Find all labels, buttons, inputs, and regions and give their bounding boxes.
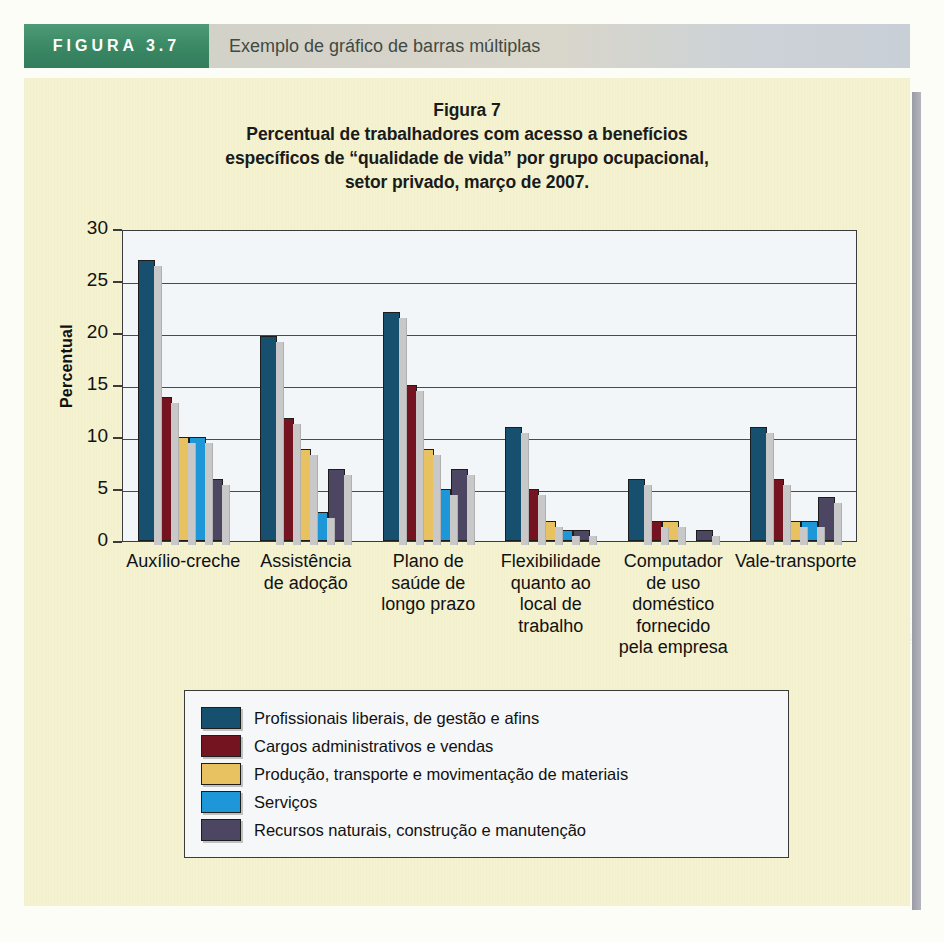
figure-header-band: FIGURA 3.7 Exemplo de gráfico de barras … [24, 24, 910, 68]
page-background: os Estados Unidos, por setor 12.000 70.2… [0, 0, 944, 942]
bar-group [491, 231, 614, 541]
chart-subtitle-line-2: específicos de “qualidade de vida” por g… [24, 146, 910, 170]
legend-swatch-icon [201, 763, 241, 785]
y-axis-tick-mark [113, 489, 122, 491]
figure-number-tag: FIGURA 3.7 [24, 24, 209, 68]
x-axis-category-label: Vale-transporte [721, 551, 872, 573]
bar-shadow [450, 495, 458, 545]
category-label-line: doméstico [598, 594, 749, 616]
bar-shadow [572, 536, 580, 545]
bar-shadow [712, 536, 720, 545]
bar-shadow [661, 527, 669, 545]
legend-label: Produção, transporte e movimentação de m… [254, 765, 628, 784]
bar-shadow [589, 536, 597, 545]
bar-shadow [800, 527, 808, 545]
panel-shadow [912, 92, 921, 910]
bar-shadow [310, 455, 318, 545]
bar-shadow [399, 318, 407, 545]
y-axis-tick-mark [113, 541, 122, 543]
bar-shadow [433, 455, 441, 545]
bar-shadow [344, 475, 352, 545]
legend-swatch-icon [201, 735, 241, 757]
category-label-line: de uso [598, 573, 749, 595]
figure-panel: Figura 7 Percentual de trabalhadores com… [24, 78, 910, 906]
bar-chart: Figura 7 Percentual de trabalhadores com… [24, 78, 910, 906]
category-label-line: pela empresa [598, 637, 749, 659]
bar [628, 479, 645, 541]
bar-shadow [327, 518, 335, 545]
plot-area [122, 230, 857, 542]
chart-subtitle-line-1: Percentual de trabalhadores com acesso a… [24, 122, 910, 146]
legend-label: Serviços [254, 793, 317, 812]
bar [696, 530, 713, 541]
bar-shadow [467, 475, 475, 545]
legend-item[interactable]: Profissionais liberais, de gestão e afin… [201, 704, 772, 732]
y-axis-tick-mark [113, 385, 122, 387]
bar-shadow [834, 503, 842, 545]
legend-label: Recursos naturais, construção e manutenç… [254, 821, 586, 840]
bar [750, 427, 767, 541]
bar [505, 427, 522, 541]
bar-shadow [188, 443, 196, 545]
bar-shadow [783, 485, 791, 545]
y-axis-tick-label: 5 [48, 477, 108, 499]
legend-item[interactable]: Produção, transporte e movimentação de m… [201, 760, 772, 788]
bar-shadow [538, 495, 546, 545]
bar-shadow [154, 266, 162, 545]
legend-swatch-icon [201, 707, 241, 729]
chart-title-main: Figura 7 [24, 98, 910, 122]
y-axis-tick-label: 25 [48, 269, 108, 291]
y-axis-tick-mark [113, 281, 122, 283]
legend-label: Profissionais liberais, de gestão e afin… [254, 709, 539, 728]
bar-shadow [416, 391, 424, 545]
bar-group [613, 231, 736, 541]
bar [138, 260, 155, 541]
bar-shadow [766, 433, 774, 545]
bar-shadow [817, 527, 825, 545]
y-axis-tick-mark [113, 229, 122, 231]
chart-legend: Profissionais liberais, de gestão e afin… [184, 690, 789, 858]
category-label-line: Vale-transporte [721, 551, 872, 573]
y-axis-tick-mark [113, 333, 122, 335]
chart-title: Figura 7 Percentual de trabalhadores com… [24, 98, 910, 194]
y-axis-tick-label: 0 [48, 529, 108, 551]
y-axis-tick-label: 15 [48, 373, 108, 395]
category-label-line: fornecido [598, 616, 749, 638]
chart-subtitle-line-3: setor privado, março de 2007. [24, 170, 910, 194]
bar-shadow [521, 433, 529, 545]
bar-shadow [171, 403, 179, 545]
bar-group [368, 231, 491, 541]
y-axis-tick-mark [113, 437, 122, 439]
bar-group [246, 231, 369, 541]
legend-swatch-icon [201, 791, 241, 813]
bar-group [123, 231, 246, 541]
bar-shadow [678, 527, 686, 545]
bar-shadow [644, 485, 652, 545]
bar-shadow [555, 527, 563, 545]
bar-shadow [293, 424, 301, 545]
figure-caption: Exemplo de gráfico de barras múltiplas [229, 24, 540, 68]
bar-shadow [205, 443, 213, 545]
legend-label: Cargos administrativos e vendas [254, 737, 493, 756]
bar-shadow [222, 485, 230, 545]
bar [383, 312, 400, 541]
legend-item[interactable]: Recursos naturais, construção e manutenç… [201, 816, 772, 844]
bar [260, 336, 277, 541]
legend-item[interactable]: Cargos administrativos e vendas [201, 732, 772, 760]
bar-shadow [276, 342, 284, 545]
y-axis-tick-label: 20 [48, 321, 108, 343]
bar-group [736, 231, 859, 541]
legend-item[interactable]: Serviços [201, 788, 772, 816]
legend-swatch-icon [201, 819, 241, 841]
y-axis-tick-label: 30 [48, 217, 108, 239]
y-axis-tick-label: 10 [48, 425, 108, 447]
figure-number-label: FIGURA 3.7 [53, 37, 180, 55]
